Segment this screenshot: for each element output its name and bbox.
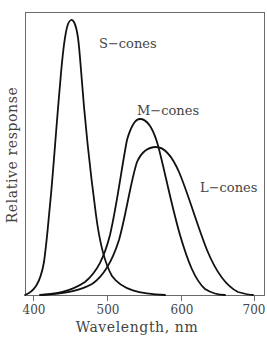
m-cones-curve [40,119,225,295]
m-cones-label: M−cones [137,103,199,118]
y-axis-label: Relative response [4,87,20,224]
l-cones-curve [42,147,253,295]
s-cones-label: S−cones [99,36,157,51]
x-tick-label-400: 400 [23,303,46,317]
s-cones-curve [25,20,165,295]
x-tick-label-700: 700 [243,303,266,317]
l-cones-label: L−cones [200,180,257,195]
x-tick-label-600: 600 [171,303,194,317]
x-tick-label-500: 500 [97,303,120,317]
x-axis: 400 500 600 700 [23,296,266,318]
cone-response-chart: 400 500 600 700 S−cones M−cones L−cones … [0,0,267,337]
plot-frame [26,13,265,296]
x-axis-label: Wavelength, nm [76,319,199,335]
